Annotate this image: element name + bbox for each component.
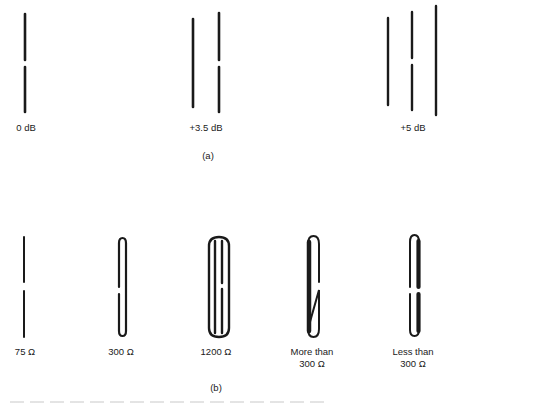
label-0db: 0 dB bbox=[16, 122, 36, 134]
dipole-3-5db-icon bbox=[193, 13, 219, 112]
caption-a: (a) bbox=[202, 150, 214, 162]
folded-dipole-1200-ohm-icon bbox=[209, 237, 229, 337]
label-line1: More than bbox=[291, 346, 334, 358]
label-line2: 300 Ω bbox=[291, 358, 334, 370]
folded-dipole-more-than-300-ohm-icon bbox=[308, 236, 319, 337]
label-5db: +5 dB bbox=[400, 122, 425, 134]
cropped-caption-line bbox=[10, 401, 330, 403]
label-more-than-300-ohm: More than 300 Ω bbox=[291, 346, 334, 369]
caption-b: (b) bbox=[210, 382, 222, 394]
label-75-ohm: 75 Ω bbox=[15, 346, 35, 358]
label-line2: 300 Ω bbox=[392, 358, 433, 370]
folded-dipole-less-than-300-ohm-icon bbox=[410, 235, 419, 336]
label-1200-ohm: 1200 Ω bbox=[201, 346, 232, 358]
folded-dipole-300-ohm-icon bbox=[119, 238, 126, 336]
label-300-ohm: 300 Ω bbox=[108, 346, 134, 358]
label-line1: Less than bbox=[392, 346, 433, 358]
label-3-5db: +3.5 dB bbox=[189, 122, 222, 134]
label-less-than-300-ohm: Less than 300 Ω bbox=[392, 346, 433, 369]
dipole-diagram bbox=[0, 0, 553, 407]
dipole-5db-icon bbox=[388, 6, 436, 115]
